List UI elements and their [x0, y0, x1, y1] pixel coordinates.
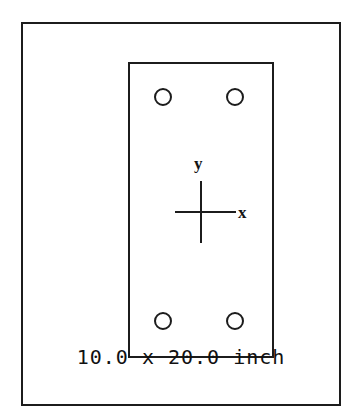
hole-bottom-left-icon — [154, 312, 172, 330]
y-axis-label: y — [194, 155, 203, 172]
hole-top-left-icon — [154, 88, 172, 106]
x-axis-label: x — [238, 204, 247, 221]
hole-bottom-right-icon — [226, 312, 244, 330]
hole-top-right-icon — [226, 88, 244, 106]
y-axis-line — [200, 181, 202, 243]
drawing-canvas: y x 10.0 x 20.0 inch — [0, 0, 344, 412]
x-axis-line — [175, 211, 236, 213]
dimension-caption: 10.0 x 20.0 inch — [21, 345, 341, 369]
